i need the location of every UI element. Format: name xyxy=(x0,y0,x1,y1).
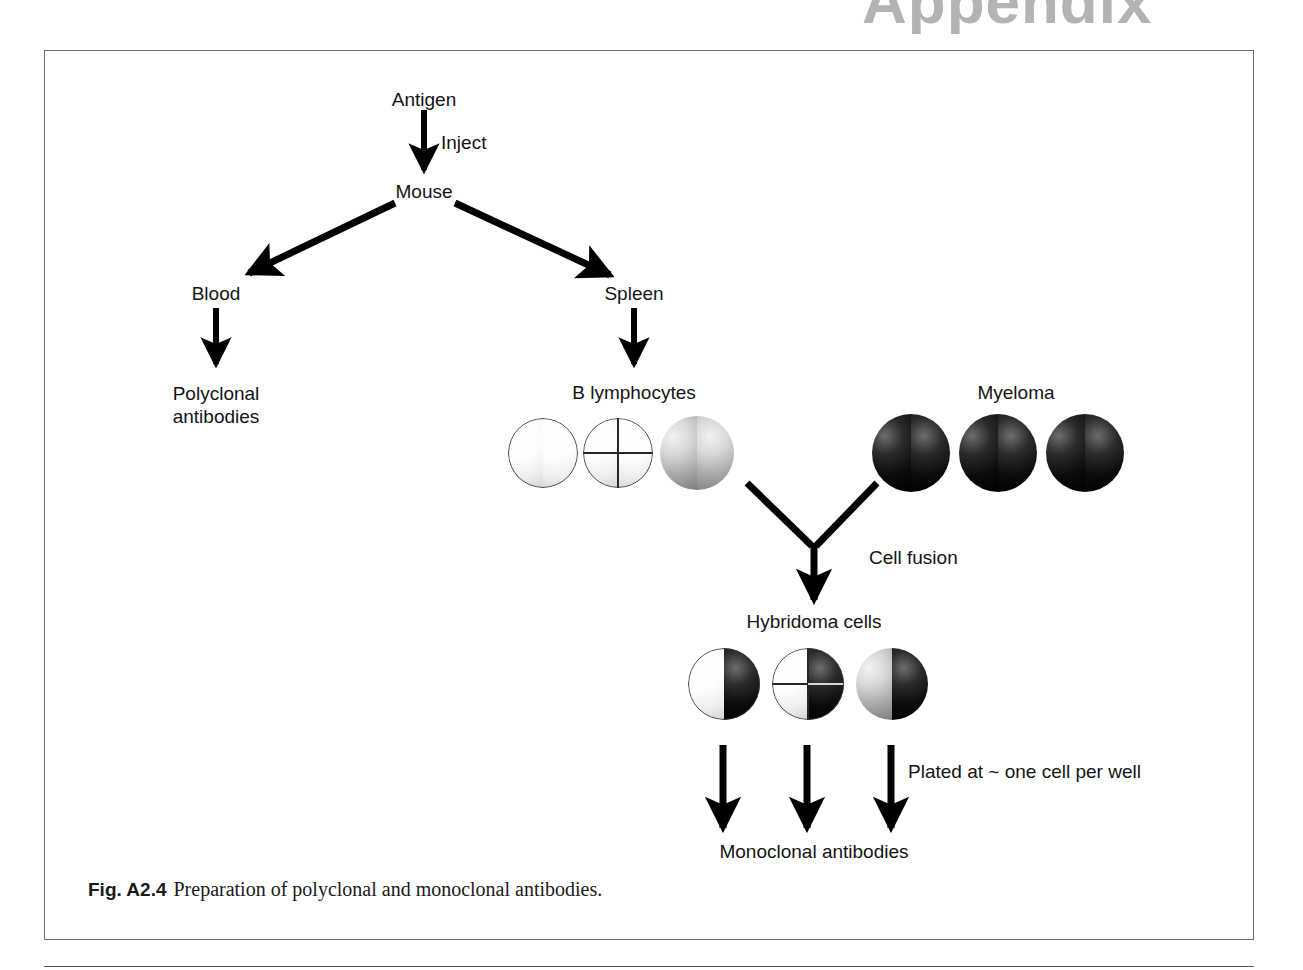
myeloma-cell-2-right xyxy=(998,414,1037,492)
figure-frame xyxy=(44,50,1254,940)
hybridoma-cell-quadrant-outline xyxy=(772,648,844,720)
appendix-header-text: Appendix xyxy=(862,0,1152,34)
hybridoma-cell-gray xyxy=(856,648,928,720)
label-hybridoma-cells: Hybridoma cells xyxy=(746,610,881,633)
hybridoma-cell-quadrant xyxy=(772,648,844,720)
myeloma-cell-2 xyxy=(959,414,1037,492)
label-polyclonal-line1: Polyclonal xyxy=(173,382,260,405)
label-b-lymphocytes: B lymphocytes xyxy=(572,381,696,404)
label-mouse: Mouse xyxy=(395,180,452,203)
page-header: Appendix xyxy=(0,0,1303,34)
page-bottom-rule xyxy=(44,966,1254,967)
hybridoma-cell-plain-outline xyxy=(688,648,760,720)
hybridoma-cell-gray-left xyxy=(856,648,892,720)
b-cell-gray-left xyxy=(660,416,697,490)
b-cell-quadrant xyxy=(583,418,653,488)
b-cell-plain xyxy=(508,418,578,488)
hybridoma-cell-plain xyxy=(688,648,760,720)
label-myeloma: Myeloma xyxy=(977,381,1054,404)
figure-caption: Fig. A2.4Preparation of polyclonal and m… xyxy=(88,878,602,901)
myeloma-cell-1-right xyxy=(911,414,950,492)
label-antigen: Antigen xyxy=(392,88,456,111)
myeloma-cell-1 xyxy=(872,414,950,492)
myeloma-cell-3-right xyxy=(1085,414,1124,492)
figure-caption-label: Fig. A2.4 xyxy=(88,879,166,900)
myeloma-cell-3 xyxy=(1046,414,1124,492)
label-plated-per-well: Plated at ~ one cell per well xyxy=(908,760,1141,783)
label-monoclonal-antibodies: Monoclonal antibodies xyxy=(719,840,908,863)
b-cell-gray-right xyxy=(697,416,734,490)
b-cell-plain-outline xyxy=(508,418,578,488)
myeloma-cell-1-left xyxy=(872,414,911,492)
myeloma-cell-3-left xyxy=(1046,414,1085,492)
label-spleen: Spleen xyxy=(604,282,663,305)
myeloma-cell-2-left xyxy=(959,414,998,492)
figure-caption-text: Preparation of polyclonal and monoclonal… xyxy=(173,878,602,900)
b-cell-quadrant-outline xyxy=(583,418,653,488)
label-cell-fusion: Cell fusion xyxy=(869,546,958,569)
hybridoma-cell-gray-right xyxy=(892,648,928,720)
label-blood: Blood xyxy=(192,282,241,305)
label-inject: Inject xyxy=(441,131,486,154)
label-polyclonal-line2: antibodies xyxy=(173,405,260,428)
b-cell-gray xyxy=(660,416,734,490)
